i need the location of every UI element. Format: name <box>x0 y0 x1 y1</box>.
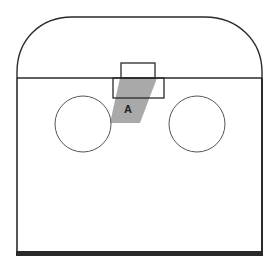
left-circle <box>55 96 111 152</box>
shaded-region-a <box>110 78 157 123</box>
region-a-label: A <box>124 103 132 115</box>
main-body-bottom-edge <box>16 251 263 256</box>
upper-box <box>121 63 155 78</box>
diagram-canvas: A <box>0 0 277 272</box>
right-circle <box>169 96 225 152</box>
arch-top <box>17 17 262 78</box>
